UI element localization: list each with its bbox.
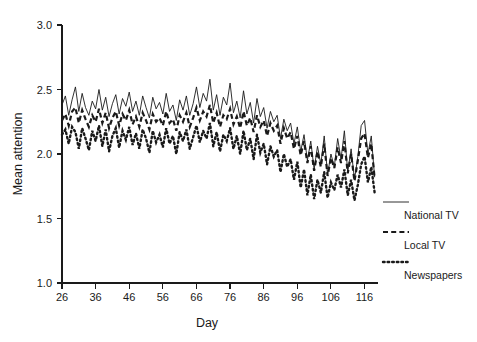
legend-label-national-tv: National TV [404, 209, 459, 221]
series-newspapers [62, 123, 375, 200]
y-tick-label: 1.0 [37, 277, 52, 289]
x-tick-label: 96 [291, 291, 303, 303]
x-tick-labels: 26 36 46 56 66 76 86 96 106 116 [56, 291, 373, 303]
legend-label-local-tv: Local TV [404, 239, 445, 251]
series-group [62, 79, 375, 200]
x-tick-label: 76 [224, 291, 236, 303]
legend-label-newspapers: Newspapers [404, 269, 462, 281]
y-axis-title: Mean attention [11, 113, 25, 196]
x-tick-label: 116 [356, 291, 374, 303]
x-tick-label: 36 [89, 291, 101, 303]
x-tick-label: 106 [322, 291, 340, 303]
x-tick-label: 86 [257, 291, 269, 303]
y-tick-marks [57, 25, 62, 283]
x-axis-title: Day [196, 316, 219, 330]
y-tick-label: 2.5 [37, 84, 52, 96]
x-tick-label: 26 [56, 291, 68, 303]
x-tick-label: 46 [123, 291, 135, 303]
y-tick-label: 2.0 [37, 148, 52, 160]
y-tick-label: 3.0 [37, 19, 52, 31]
y-tick-labels: 3.0 2.5 2.0 1.5 1.0 [37, 19, 52, 289]
legend: National TV Local TV Newspapers [383, 202, 462, 281]
y-tick-label: 1.5 [37, 213, 52, 225]
x-tick-label: 56 [157, 291, 169, 303]
x-tick-marks [62, 283, 364, 289]
x-tick-label: 66 [190, 291, 202, 303]
line-chart: 3.0 2.5 2.0 1.5 1.0 26 36 46 56 66 76 [0, 0, 477, 342]
figure-container: 3.0 2.5 2.0 1.5 1.0 26 36 46 56 66 76 [0, 0, 477, 342]
